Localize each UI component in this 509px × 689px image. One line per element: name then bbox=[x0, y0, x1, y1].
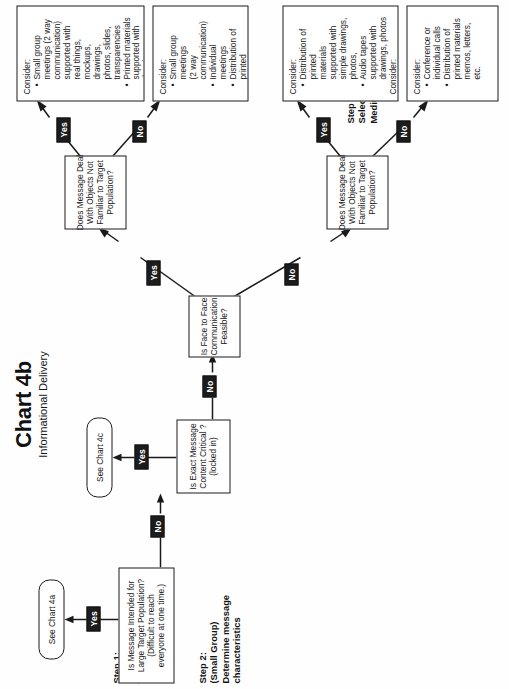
arrowhead-d2-yes bbox=[112, 453, 121, 460]
terminal-label: See Chart 4a bbox=[46, 594, 56, 643]
arrowhead-d1-no bbox=[156, 493, 163, 502]
edge-label-d5-no: No bbox=[396, 120, 410, 142]
outcome-item: Conference or individual calls bbox=[422, 12, 442, 86]
outcome-item: Distribution of printed materials bbox=[228, 12, 248, 86]
outcome-list: Conference or individual calls Distribut… bbox=[422, 12, 482, 94]
outcome-item: Hypermedia stacks bbox=[397, 12, 398, 86]
outcome-list: Distribution of printed materials suppor… bbox=[298, 12, 388, 94]
outcome-header: Consider: bbox=[22, 12, 32, 94]
outcome-box-2: Consider: Small group meetings (2 way co… bbox=[152, 5, 248, 101]
terminal-see-chart-4a[interactable]: See Chart 4a bbox=[38, 579, 64, 659]
decision-line: Population? bbox=[367, 170, 377, 214]
edge-label-d5-yes: Yes bbox=[316, 117, 330, 142]
outcome-item: Small group meetings (2 way communicatio… bbox=[168, 12, 208, 86]
edge-label-d1-no: No bbox=[150, 515, 164, 537]
decision-line: Is Exact Message bbox=[188, 423, 198, 489]
step-label-2: Step 2: (Small Group) Determine message … bbox=[196, 594, 241, 683]
decision-face-to-face-feasible[interactable]: Is Face to Face Communication Feasible? bbox=[188, 295, 240, 357]
decision-line: Is Message Intended for bbox=[126, 580, 136, 670]
outcome-box-4: Consider: Conference or individual calls… bbox=[406, 5, 498, 101]
edge-label-d3-yes: Yes bbox=[146, 260, 160, 285]
chart-page: Chart 4b Informational Delivery Step 1: … bbox=[0, 0, 509, 689]
edge-label-d4-no: No bbox=[132, 120, 146, 142]
outcome-list: Small group meetings (2 way communicatio… bbox=[32, 12, 144, 94]
decision-exact-message-content-critical[interactable]: Is Exact Message Content Critical ? (loc… bbox=[176, 419, 230, 493]
outcome-item: Distribution of printed materials suppor… bbox=[298, 12, 358, 86]
decision-line: Does Message Deal bbox=[337, 154, 347, 229]
outcome-header: Consider: bbox=[288, 12, 298, 94]
outcome-header-2: Consider: bbox=[388, 12, 398, 94]
decision-line: (locked in) bbox=[208, 437, 218, 476]
outcome-list-2: Hypermedia stacks bbox=[397, 12, 398, 94]
connector-lines bbox=[0, 0, 509, 689]
decision-line: Does Message Deal bbox=[75, 154, 85, 229]
outcome-item: Distribution of printed materials memos,… bbox=[442, 12, 482, 86]
edge-label-d3-no: No bbox=[284, 263, 298, 285]
flowchart-canvas: Chart 4b Informational Delivery Step 1: … bbox=[0, 0, 509, 689]
outcome-box-3: Consider: Distribution of printed materi… bbox=[282, 5, 398, 101]
decision-unfamiliar-objects-upper[interactable]: Does Message Deal With Objects Not Famil… bbox=[64, 155, 126, 229]
edge-label-d2-yes: Yes bbox=[134, 444, 148, 469]
outcome-item: Audio tapes supported with drawings, pho… bbox=[358, 12, 388, 86]
outcome-box-1: Consider: Small group meetings (2 way co… bbox=[16, 5, 144, 101]
outcome-header: Consider: bbox=[158, 12, 168, 94]
decision-line: Familiar to Target bbox=[95, 160, 105, 225]
outcome-item: Small group meetings (2 way communicatio… bbox=[32, 12, 122, 86]
page-subtitle: Informational Delivery bbox=[36, 279, 48, 529]
decision-line: Communication bbox=[209, 297, 219, 355]
decision-line: (Difficult to reach bbox=[146, 594, 156, 657]
terminal-see-chart-4c[interactable]: See Chart 4c bbox=[86, 417, 112, 497]
chart-title-block: Chart 4b Informational Delivery bbox=[12, 279, 48, 529]
page-title: Chart 4b bbox=[12, 279, 34, 529]
arrowhead-d1-yes bbox=[64, 615, 73, 622]
decision-line: Content Critical ? bbox=[198, 424, 208, 488]
edge-label-d1-yes: Yes bbox=[86, 606, 100, 631]
decision-line: Population? bbox=[105, 170, 115, 214]
decision-line: With Objects Not bbox=[85, 161, 95, 224]
decision-line: everyone at one time.) bbox=[156, 583, 166, 666]
decision-unfamiliar-objects-lower[interactable]: Does Message Deal With Objects Not Famil… bbox=[326, 155, 388, 229]
decision-line: Feasible? bbox=[219, 308, 229, 344]
outcome-item: Individual meetings bbox=[208, 12, 228, 86]
decision-line: Large Target Population? bbox=[136, 578, 146, 671]
edge-label-d2-no: No bbox=[202, 375, 216, 397]
terminal-label: See Chart 4c bbox=[94, 433, 104, 482]
decision-line: Familiar to Target bbox=[357, 160, 367, 225]
decision-large-target-population[interactable]: Is Message Intended for Large Target Pop… bbox=[118, 567, 174, 683]
decision-line: With Objects Not bbox=[347, 161, 357, 224]
outcome-header: Consider: bbox=[412, 12, 422, 94]
outcome-list: Small group meetings (2 way communicatio… bbox=[168, 12, 248, 94]
edge-label-d4-yes: Yes bbox=[56, 117, 70, 142]
outcome-item: Printed materials supported with drawing… bbox=[122, 12, 144, 86]
decision-line: Is Face to Face bbox=[199, 297, 209, 355]
